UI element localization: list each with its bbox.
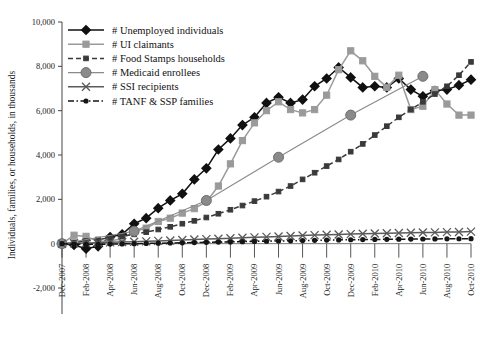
svg-text:Jun-2009: Jun-2009: [274, 264, 284, 296]
line-chart: -2,00002,0004,0006,0008,00010,000Dec-200…: [0, 0, 478, 340]
legend-item-3: # Medicaid enrollees: [68, 67, 200, 78]
svg-text:Jun-2010: Jun-2010: [418, 264, 428, 296]
svg-text:Dec-2008: Dec-2008: [201, 264, 211, 298]
svg-text:Apr-2010: Apr-2010: [394, 264, 404, 297]
svg-text:Apr-2008: Apr-2008: [105, 264, 115, 297]
svg-text:8,000: 8,000: [36, 61, 55, 71]
svg-text:Dec-2007: Dec-2007: [57, 264, 67, 298]
svg-text:Feb-2010: Feb-2010: [370, 264, 380, 297]
svg-text:Feb-2009: Feb-2009: [225, 264, 235, 297]
svg-text:Oct-2008: Oct-2008: [177, 264, 187, 296]
y-axis-label: Individuals, families, or households, in…: [7, 71, 17, 260]
svg-text:Aug-2008: Aug-2008: [153, 264, 163, 298]
chart-background: [0, 0, 478, 340]
svg-text:0: 0: [51, 239, 55, 249]
legend-label: # UI claimants: [112, 39, 174, 50]
legend-label: # SSI recipients: [112, 81, 179, 92]
svg-text:Apr-2009: Apr-2009: [249, 264, 259, 297]
svg-text:Dec-2009: Dec-2009: [346, 264, 356, 298]
svg-text:Jun-2008: Jun-2008: [129, 264, 139, 296]
svg-text:Aug-2010: Aug-2010: [442, 264, 452, 298]
svg-text:10,000: 10,000: [32, 17, 55, 27]
legend-label: # Unemployed individuals: [112, 25, 223, 36]
svg-text:-2,000: -2,000: [33, 283, 55, 293]
svg-text:6,000: 6,000: [36, 106, 55, 116]
svg-text:Aug-2009: Aug-2009: [298, 264, 308, 298]
legend-label: # TANF & SSP families: [112, 96, 213, 107]
svg-text:Oct-2009: Oct-2009: [322, 264, 332, 296]
svg-text:2,000: 2,000: [36, 194, 55, 204]
chart-figure: -2,00002,0004,0006,0008,00010,000Dec-200…: [0, 0, 478, 340]
legend-label: # Food Stamps households: [112, 53, 225, 64]
svg-text:Oct-2010: Oct-2010: [466, 264, 476, 296]
svg-text:4,000: 4,000: [36, 150, 55, 160]
legend-label: # Medicaid enrollees: [112, 67, 200, 78]
svg-text:Feb-2008: Feb-2008: [81, 264, 91, 297]
